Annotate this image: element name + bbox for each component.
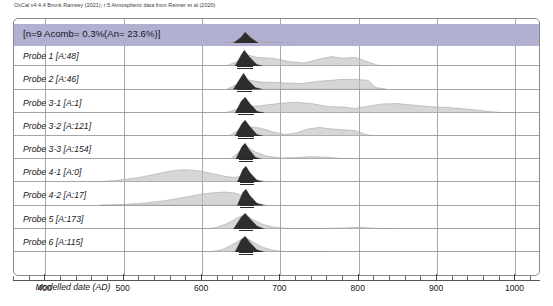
tick-major-900	[436, 274, 437, 280]
probe-label: Probe 5 [A:173]	[23, 214, 83, 224]
distribution-curve	[14, 94, 539, 113]
distribution-curve	[14, 117, 539, 136]
tick-minor	[217, 276, 218, 280]
tick-minor	[342, 276, 343, 280]
tick-label-800: 800	[351, 283, 365, 293]
tick-minor	[232, 276, 233, 280]
tick-minor	[389, 276, 390, 280]
distribution-curve	[14, 47, 539, 66]
oxcal-plot: OxCal v4.4.4 Bronk Ramsey (2021); r:5 At…	[0, 0, 553, 306]
plot-frame: [n=9 Acomb= 0.3%(An= 23.6%)] Probe 1 [A:…	[13, 18, 540, 276]
probe-label: Probe 2 [A:46]	[23, 74, 79, 84]
probe-label: Probe 4-1 [A:0]	[23, 167, 81, 177]
tick-minor	[138, 276, 139, 280]
combined-label: [n=9 Acomb= 0.3%(An= 23.6%)]	[23, 28, 160, 39]
x-axis: 4005006007008009001000 Modelled date (AD…	[13, 276, 540, 306]
hpd-range-bar	[237, 89, 253, 92]
tick-minor	[311, 276, 312, 280]
tick-minor	[13, 276, 14, 280]
hpd-range-bar	[237, 66, 253, 69]
tick-minor	[264, 276, 265, 280]
probe-row[interactable]: Probe 3-1 [A:1]	[14, 94, 539, 117]
probe-label: Probe 4-2 [A:17]	[23, 190, 86, 200]
probe-row[interactable]: Probe 4-1 [A:0]	[14, 163, 539, 186]
probe-label: Probe 3-2 [A:121]	[23, 121, 91, 131]
tick-minor	[499, 276, 500, 280]
tick-minor	[530, 276, 531, 280]
tick-major-700	[279, 274, 280, 280]
tick-minor	[373, 276, 374, 280]
probe-row[interactable]: Probe 5 [A:173]	[14, 210, 539, 233]
tick-major-400	[44, 274, 45, 280]
tick-minor	[76, 276, 77, 280]
distribution-curve	[14, 140, 539, 159]
distribution-curve	[14, 163, 539, 182]
distribution-curve	[14, 210, 539, 229]
hpd-range-bar	[238, 135, 254, 138]
hpd-range-bar	[240, 205, 254, 208]
tick-minor	[326, 276, 327, 280]
probe-label: Probe 1 [A:48]	[23, 51, 79, 61]
probe-label: Probe 3-1 [A:1]	[23, 98, 81, 108]
probe-row[interactable]: Probe 6 [A:115]	[14, 233, 539, 256]
probe-row[interactable]: Probe 4-2 [A:17]	[14, 186, 539, 209]
axis-line	[13, 280, 540, 281]
tick-minor	[60, 276, 61, 280]
hpd-range-bar	[238, 112, 254, 115]
tick-major-600	[201, 274, 202, 280]
tick-label-1000: 1000	[505, 283, 524, 293]
tick-major-1000	[514, 274, 515, 280]
hpd-range-bar	[239, 159, 253, 162]
probe-label: Probe 6 [A:115]	[23, 237, 83, 247]
hpd-range-bar	[239, 251, 253, 254]
tick-minor	[405, 276, 406, 280]
tick-minor	[29, 276, 30, 280]
tick-minor	[452, 276, 453, 280]
distribution-curve	[14, 186, 539, 205]
probe-row[interactable]: Probe 3-3 [A:154]	[14, 140, 539, 163]
probe-row[interactable]: Probe 3-2 [A:121]	[14, 117, 539, 140]
tick-minor	[483, 276, 484, 280]
tick-minor	[91, 276, 92, 280]
tick-major-500	[123, 274, 124, 280]
tick-minor	[154, 276, 155, 280]
tick-major-800	[358, 274, 359, 280]
tick-minor	[420, 276, 421, 280]
distribution-curve	[14, 233, 539, 252]
probe-label: Probe 3-3 [A:154]	[23, 144, 91, 154]
probe-row[interactable]: Probe 2 [A:46]	[14, 70, 539, 93]
oxcal-credit-line: OxCal v4.4.4 Bronk Ramsey (2021); r:5 At…	[14, 2, 215, 8]
tick-minor	[107, 276, 108, 280]
tick-minor	[295, 276, 296, 280]
tick-minor	[248, 276, 249, 280]
tick-minor	[185, 276, 186, 280]
axis-title: Modelled date (AD)	[36, 282, 111, 292]
tick-minor	[467, 276, 468, 280]
tick-label-500: 500	[116, 283, 130, 293]
hpd-range-bar	[240, 182, 254, 185]
tick-minor	[170, 276, 171, 280]
tick-label-700: 700	[272, 283, 286, 293]
probe-row[interactable]: Probe 1 [A:48]	[14, 47, 539, 70]
distribution-curve	[14, 70, 539, 89]
hpd-range-bar	[239, 228, 253, 231]
tick-label-900: 900	[429, 283, 443, 293]
tick-label-600: 600	[194, 283, 208, 293]
